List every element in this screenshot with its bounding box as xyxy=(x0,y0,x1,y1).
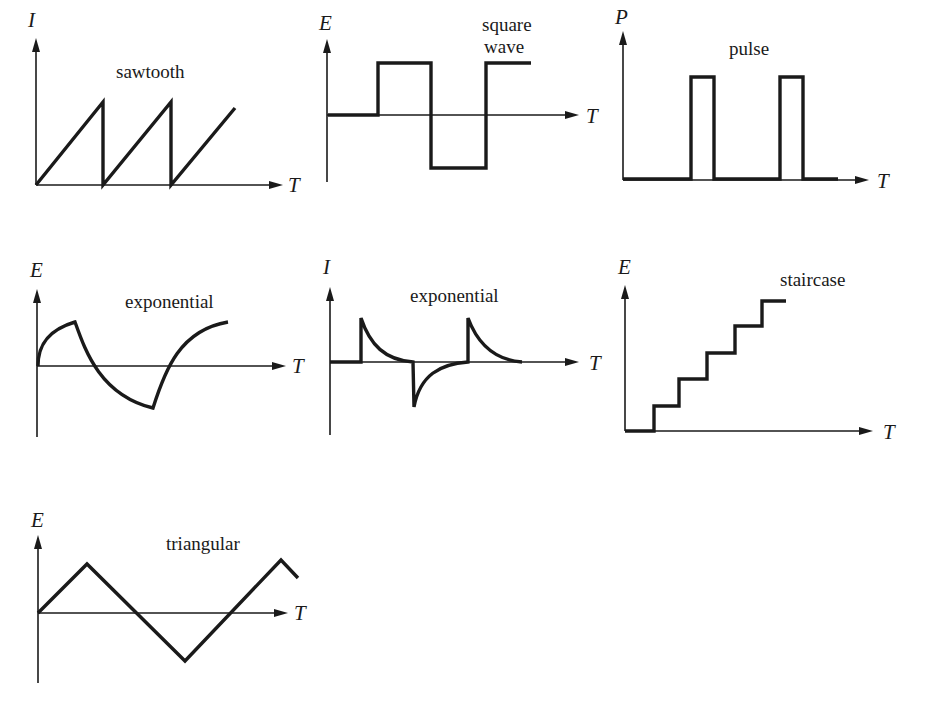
x-axis-arrow-icon xyxy=(859,427,873,435)
y-axis-label: E xyxy=(617,255,631,279)
panel-exponential-current: I T exponential xyxy=(322,255,602,435)
y-axis-arrow-icon xyxy=(619,31,627,45)
y-axis-label: E xyxy=(30,508,44,532)
x-axis-arrow-icon xyxy=(269,181,283,189)
x-axis-arrow-icon xyxy=(274,609,288,617)
sawtooth-waveform xyxy=(36,102,235,185)
panel-title: exponential xyxy=(410,285,499,306)
x-axis-label: T xyxy=(294,601,307,625)
waveforms-figure: I T sawtooth E T square wave P T pulse E… xyxy=(0,0,928,702)
panel-title: sawtooth xyxy=(116,61,185,82)
y-axis-label: P xyxy=(614,5,628,29)
panel-title: staircase xyxy=(780,269,845,290)
panel-pulse: P T pulse xyxy=(614,5,890,193)
y-axis-arrow-icon xyxy=(33,289,41,303)
y-axis-label: I xyxy=(322,255,331,279)
panel-title: pulse xyxy=(729,38,769,59)
x-axis-arrow-icon xyxy=(272,362,286,370)
panel-square-wave: E T square wave xyxy=(318,11,599,182)
y-axis-arrow-icon xyxy=(326,287,334,301)
y-axis-label: E xyxy=(318,11,332,35)
y-axis-label: I xyxy=(27,8,36,32)
panel-exponential-voltage: E T exponential xyxy=(29,258,305,437)
y-axis-label: E xyxy=(29,258,43,282)
x-axis-arrow-icon xyxy=(855,176,869,184)
x-axis-label: T xyxy=(589,351,602,375)
panel-sawtooth: I T sawtooth xyxy=(27,8,301,197)
x-axis-label: T xyxy=(586,104,599,128)
x-axis-label: T xyxy=(292,354,305,378)
panel-staircase: E T staircase xyxy=(617,255,896,444)
triangular-waveform xyxy=(38,560,298,661)
staircase-waveform xyxy=(625,301,786,431)
y-axis-arrow-icon xyxy=(34,535,42,549)
x-axis-label: T xyxy=(877,169,890,193)
panel-title: exponential xyxy=(125,291,214,312)
x-axis-label: T xyxy=(883,420,896,444)
x-axis-label: T xyxy=(288,173,301,197)
x-axis-arrow-icon xyxy=(565,111,579,119)
panel-triangular: E T triangular xyxy=(30,508,307,683)
y-axis-arrow-icon xyxy=(323,39,331,53)
panel-title-line-1: square xyxy=(482,14,532,35)
exponential-voltage-waveform xyxy=(38,322,228,408)
x-axis-arrow-icon xyxy=(565,358,579,366)
panel-title-line-2: wave xyxy=(484,36,524,57)
y-axis-arrow-icon xyxy=(32,38,40,52)
y-axis-arrow-icon xyxy=(621,285,629,299)
pulse-waveform xyxy=(623,77,838,179)
panel-title: triangular xyxy=(166,533,241,554)
